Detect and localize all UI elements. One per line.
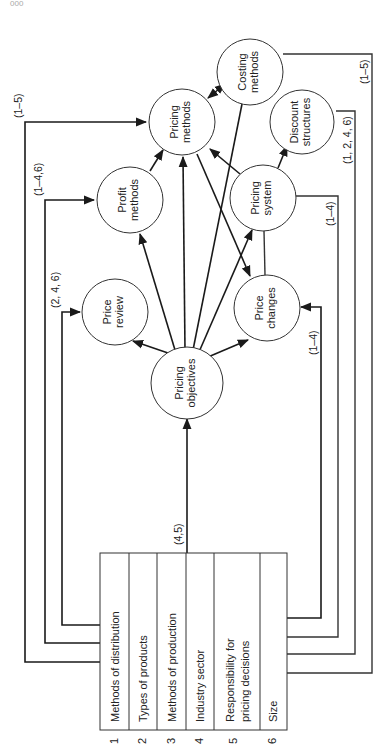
arrow-objectives-to-review xyxy=(133,341,168,353)
svg-text:system: system xyxy=(261,181,273,216)
factor-row-6: Size 6 xyxy=(266,701,279,744)
svg-text:Methods of production: Methods of production xyxy=(166,613,178,722)
arrow-profit-to-pricing-methods xyxy=(150,150,163,171)
svg-text:structures: structures xyxy=(300,97,312,146)
svg-text:Pricing: Pricing xyxy=(249,181,261,215)
svg-text:Costing: Costing xyxy=(236,53,248,90)
svg-text:Size: Size xyxy=(267,701,279,722)
factor-number: 6 xyxy=(266,738,278,744)
label-to-profit-methods: (1–4,6) xyxy=(32,163,44,196)
factor-number: 1 xyxy=(108,738,120,744)
line-system-changes xyxy=(264,231,265,275)
factor-number: 2 xyxy=(136,738,148,744)
arrow-system-to-pricing-methods xyxy=(210,149,240,174)
label-to-objectives: (4,5) xyxy=(172,523,184,545)
factor-number: 3 xyxy=(165,738,177,744)
node-profit-methods: Profit methods xyxy=(97,167,163,233)
svg-text:Methods of distribution: Methods of distribution xyxy=(109,611,121,722)
svg-text:Industry sector: Industry sector xyxy=(194,650,206,722)
arrow-objectives-to-profit xyxy=(140,234,175,350)
page-number: 000 xyxy=(10,0,24,8)
label-to-price-changes: (1–4) xyxy=(307,330,319,355)
factor-table: Methods of distribution 1 Types of produ… xyxy=(100,553,287,744)
label-to-costing-methods: (1–5) xyxy=(358,59,370,84)
svg-text:Responsibility for: Responsibility for xyxy=(224,638,236,722)
arrow-objectives-to-changes xyxy=(208,340,248,357)
svg-text:Price: Price xyxy=(101,299,113,324)
svg-text:objectives: objectives xyxy=(185,358,197,407)
arrow-objectives-to-pricing-methods xyxy=(183,157,185,350)
svg-text:methods: methods xyxy=(180,100,192,143)
connector-to-pricing-system xyxy=(287,196,338,637)
svg-text:Types of products: Types of products xyxy=(137,635,149,722)
svg-text:Profit: Profit xyxy=(116,187,128,213)
pricing-factors-diagram: 000 (4,5) (2, 4, 6) (1–4,6) (1–5) xyxy=(0,0,381,746)
svg-text:Pricing: Pricing xyxy=(173,366,185,400)
node-costing-methods: Costing methods xyxy=(217,39,283,105)
svg-text:Price: Price xyxy=(253,295,265,320)
svg-text:changes: changes xyxy=(265,287,277,329)
label-to-pricing-system: (1–4) xyxy=(324,201,336,226)
svg-text:pricing decisions: pricing decisions xyxy=(239,640,251,722)
svg-text:methods: methods xyxy=(248,50,260,93)
label-to-price-review: (2, 4, 6) xyxy=(49,272,61,308)
svg-text:Discount: Discount xyxy=(288,101,300,144)
factor-number: 4 xyxy=(193,738,205,744)
node-price-changes: Price changes xyxy=(234,275,300,341)
svg-text:review: review xyxy=(113,296,125,328)
node-pricing-system: Pricing system xyxy=(230,165,296,231)
label-to-pricing-methods: (1–5) xyxy=(12,93,24,118)
label-to-discount-structures: (1, 2, 4, 6) xyxy=(341,116,353,164)
node-price-review: Price review xyxy=(82,279,148,345)
connector-to-profit-methods xyxy=(45,200,100,643)
svg-text:Pricing: Pricing xyxy=(168,105,180,139)
factor-number: 5 xyxy=(227,738,239,744)
node-pricing-objectives: Pricing objectives xyxy=(151,347,223,419)
node-discount-structures: Discount structures xyxy=(270,90,334,154)
connector-to-price-review xyxy=(62,312,100,625)
svg-text:methods: methods xyxy=(128,178,140,221)
node-pricing-methods: Pricing methods xyxy=(149,89,215,155)
